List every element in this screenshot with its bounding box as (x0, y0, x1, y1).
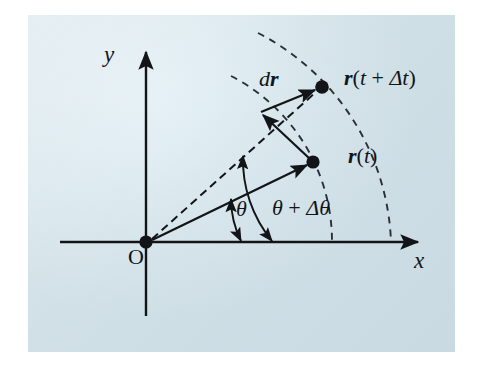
rtdt-close-paren: ) (408, 65, 415, 90)
radial-transport-arrow (263, 115, 310, 159)
theta-plus-delta-theta-label: θ + Δθ (272, 197, 330, 219)
theta2-plus: + (283, 195, 306, 220)
rt-open-paren: ( (357, 143, 364, 168)
rt-close-paren: ) (370, 143, 377, 168)
r-t-label: r(t) (348, 145, 377, 167)
r-t-plus-delta-t-label: r(t + Δt) (344, 67, 416, 89)
rtdt-plus: + (366, 65, 389, 90)
rtdt-open-paren: ( (353, 65, 360, 90)
origin-label: O (128, 246, 144, 268)
figure-root: y x O dr r(t + Δt) r(t) θ θ + Δθ (0, 0, 479, 374)
angle-arc-theta-plus-delta-theta (243, 156, 272, 241)
point-r-t-plus-dt (315, 80, 329, 94)
x-axis-label: x (414, 249, 424, 272)
dr-label: dr (259, 68, 279, 90)
theta2-symbol: θ (272, 195, 283, 220)
point-r-t (306, 155, 319, 168)
rtdt-vector-r: r (344, 65, 353, 90)
vector-diagram-svg (0, 0, 479, 374)
theta2-symbol-b: θ (319, 195, 330, 220)
dr-label-d: d (259, 66, 270, 91)
rtdt-delta: Δ (389, 65, 402, 90)
y-axis-label: y (104, 43, 114, 66)
axes-group (60, 52, 418, 316)
dr-label-vector-r: r (270, 66, 279, 91)
rt-vector-r: r (348, 143, 357, 168)
theta-label: θ (236, 198, 247, 220)
theta2-delta: Δ (306, 195, 319, 220)
